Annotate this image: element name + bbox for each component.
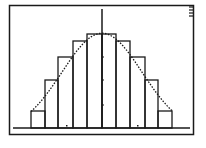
histogram-bar: [87, 34, 102, 128]
histogram-bar: [130, 57, 145, 128]
histogram-bar: [158, 111, 172, 128]
histogram-bar: [31, 111, 45, 128]
histogram-bar: [45, 80, 58, 128]
busy-indicator-icon: [189, 7, 193, 16]
calculator-graph-screen: [0, 0, 206, 148]
histogram-bar: [116, 41, 130, 128]
histogram-bar: [58, 57, 73, 128]
histogram-bar: [145, 80, 158, 128]
histogram-bar: [102, 34, 116, 128]
